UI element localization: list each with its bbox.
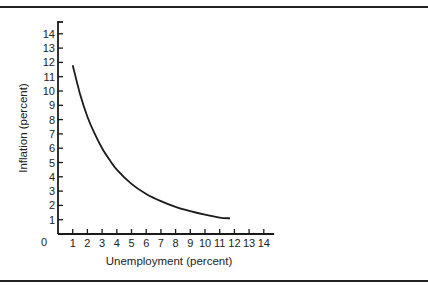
y-tick-label: 10 (43, 85, 55, 97)
x-tick-label: 4 (114, 237, 120, 249)
y-axis-ticks: 1234567891011121314 (43, 28, 63, 226)
y-axis-title: Inflation (percent) (17, 83, 29, 173)
x-tick-label: 8 (173, 237, 179, 249)
x-tick-label: 3 (99, 237, 105, 249)
x-axis-ticks: 1234567891011121314 (70, 229, 270, 249)
y-tick-label: 7 (49, 128, 55, 140)
x-tick-label: 5 (128, 237, 134, 249)
y-tick-label: 2 (49, 199, 55, 211)
y-tick-label: 3 (49, 185, 55, 197)
y-tick-label: 13 (43, 42, 55, 54)
x-tick-label: 9 (187, 237, 193, 249)
x-tick-label: 12 (228, 237, 240, 249)
origin-label: 0 (41, 236, 47, 248)
y-tick-label: 4 (49, 171, 55, 183)
x-tick-label: 6 (143, 237, 149, 249)
y-tick-label: 9 (49, 99, 55, 111)
x-tick-label: 1 (70, 237, 76, 249)
y-tick-label: 14 (43, 28, 55, 40)
x-tick-label: 14 (258, 237, 270, 249)
data-curve (73, 65, 230, 218)
x-tick-label: 7 (158, 237, 164, 249)
x-axis-title: Unemployment (percent) (106, 255, 233, 267)
x-tick-label: 13 (243, 237, 255, 249)
x-tick-label: 10 (199, 237, 211, 249)
x-tick-label: 11 (214, 237, 225, 249)
phillips-curve-chart: 1234567891011121314 1234567891011121314 … (0, 0, 428, 288)
y-tick-label: 12 (43, 56, 55, 68)
y-tick-label: 6 (49, 142, 55, 154)
y-tick-label: 5 (49, 157, 55, 169)
y-tick-label: 11 (44, 71, 55, 83)
x-tick-label: 2 (84, 237, 90, 249)
y-tick-label: 8 (49, 114, 55, 126)
y-tick-label: 1 (49, 214, 55, 226)
